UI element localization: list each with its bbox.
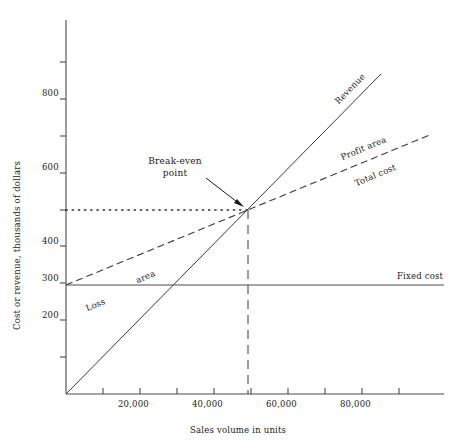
revenue-line	[66, 74, 381, 394]
y-axis-title: Cost or revenue, thousands of dollars	[12, 161, 22, 330]
x-tick-label-80000: 80,000	[340, 399, 371, 409]
y-axis-ticks	[60, 62, 66, 357]
break-even-annotation: Break-even point	[130, 155, 220, 179]
x-tick-label-40000: 40,000	[192, 399, 223, 409]
fixed-cost-label: Fixed cost	[397, 271, 443, 281]
break-even-annotation-line2: point	[130, 167, 220, 179]
break-even-annotation-line1: Break-even	[130, 155, 220, 167]
y-tick-label-300: 300	[42, 273, 59, 283]
x-axis-title: Sales volume in units	[190, 425, 286, 435]
break-even-arrow	[206, 178, 244, 207]
x-tick-label-60000: 60,000	[266, 399, 297, 409]
chart-canvas	[0, 0, 450, 447]
x-axis-ticks	[103, 388, 399, 394]
x-tick-label-20000: 20,000	[118, 399, 149, 409]
y-tick-label-600: 600	[42, 162, 59, 172]
break-even-chart: 800 600 400 300 200 20,000 40,000 60,000…	[0, 0, 450, 447]
y-tick-label-800: 800	[42, 88, 59, 98]
y-tick-label-200: 200	[42, 310, 59, 320]
total-cost-line	[66, 134, 432, 285]
y-tick-label-400: 400	[42, 236, 59, 246]
